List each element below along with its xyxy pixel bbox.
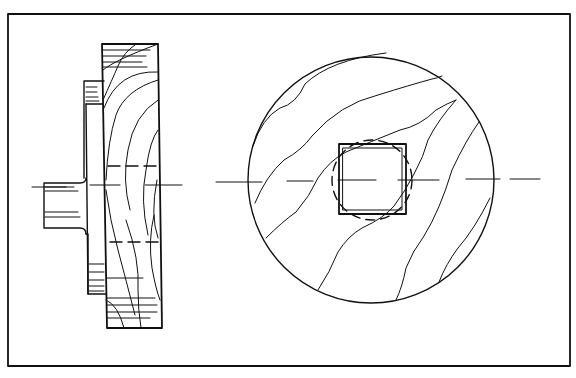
shaft-stub-hatching — [45, 187, 80, 217]
flange-bottom-hatching — [89, 264, 104, 291]
side-hidden-bore-lines — [108, 166, 160, 242]
drawing-stage — [0, 0, 576, 378]
technical-drawing — [0, 0, 576, 378]
disc-grain-lines — [103, 44, 160, 328]
shaft-stub — [44, 178, 86, 234]
disc-side — [102, 44, 162, 328]
drawing-frame — [8, 14, 570, 366]
front-centerline — [216, 179, 540, 182]
front-view — [216, 53, 540, 303]
disc-bottom-hatching — [107, 278, 157, 318]
side-view — [32, 44, 182, 328]
flange-inner-edge — [86, 104, 88, 294]
flange-top-hatching — [86, 87, 99, 101]
square-hole-inner — [343, 148, 402, 210]
